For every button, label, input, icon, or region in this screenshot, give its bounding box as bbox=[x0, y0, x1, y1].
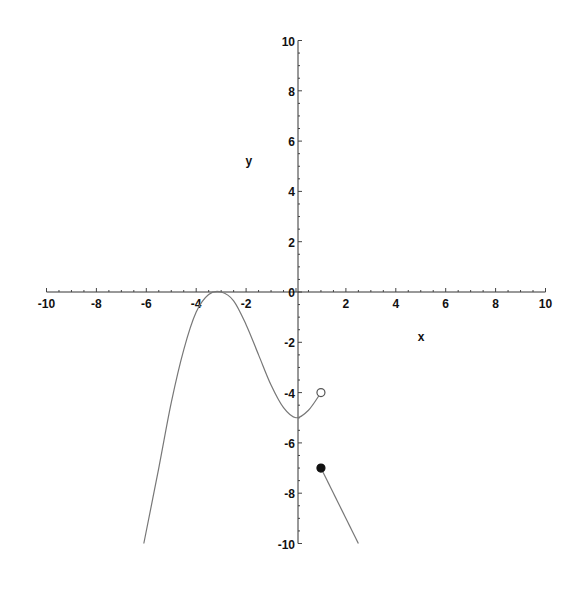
x-tick-label: 4 bbox=[392, 297, 399, 311]
x-axis-label: x bbox=[418, 330, 425, 344]
y-tick-label: 4 bbox=[288, 185, 295, 199]
y-tick-label: 0 bbox=[288, 286, 295, 300]
x-tick-label: 6 bbox=[442, 297, 449, 311]
x-tick-label: -2 bbox=[241, 297, 252, 311]
y-tick-label: 6 bbox=[288, 135, 295, 149]
y-tick-label: -8 bbox=[284, 487, 295, 501]
function-plot: -10-8-6-4-2246810-10-8-6-4-20246810 x y bbox=[0, 0, 582, 592]
x-tick-label: 10 bbox=[539, 297, 553, 311]
x-tick-label: 8 bbox=[492, 297, 499, 311]
y-tick-label: 10 bbox=[282, 35, 296, 49]
y-tick-label: -4 bbox=[284, 387, 295, 401]
open-circle-marker bbox=[317, 389, 325, 397]
y-tick-label: -2 bbox=[284, 336, 295, 350]
y-tick-label: -6 bbox=[284, 437, 295, 451]
markers bbox=[317, 389, 325, 472]
ticks bbox=[47, 41, 546, 544]
filled-circle-marker bbox=[317, 464, 325, 472]
x-tick-label: -6 bbox=[141, 297, 152, 311]
x-tick-label: 2 bbox=[343, 297, 350, 311]
x-tick-label: -10 bbox=[38, 297, 56, 311]
tick-labels: -10-8-6-4-2246810-10-8-6-4-20246810 bbox=[38, 35, 553, 552]
y-tick-label: 8 bbox=[288, 85, 295, 99]
x-tick-label: -8 bbox=[91, 297, 102, 311]
curve-piece-2 bbox=[321, 468, 358, 543]
y-tick-label: -10 bbox=[278, 538, 296, 552]
curves bbox=[144, 291, 359, 543]
y-axis-label: y bbox=[246, 154, 253, 168]
curve-piece-1 bbox=[144, 291, 321, 543]
y-tick-label: 2 bbox=[288, 236, 295, 250]
